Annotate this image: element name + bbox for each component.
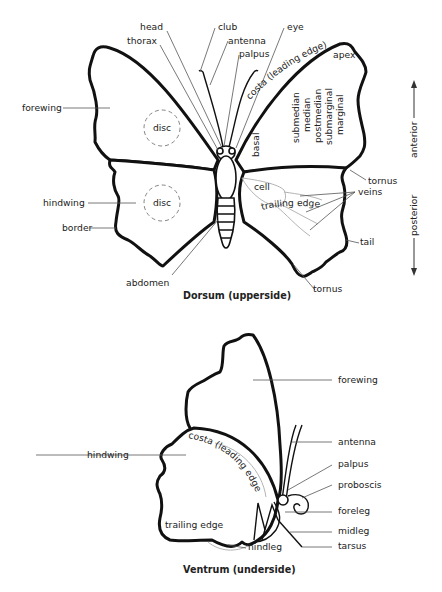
butterfly-anatomy-diagram: disc disc head thorax club antenna palpu… bbox=[0, 0, 442, 592]
label-tornus-forewing: tornus bbox=[368, 175, 397, 186]
label-antenna: antenna bbox=[228, 35, 266, 46]
label-veins: veins bbox=[358, 186, 382, 197]
label-anterior: anterior bbox=[408, 121, 419, 158]
label-posterior: posterior bbox=[408, 195, 419, 236]
caption-ventrum: Ventrum (underside) bbox=[183, 564, 296, 575]
label-hindleg: hindleg bbox=[248, 541, 282, 552]
label-cell: cell bbox=[254, 181, 270, 192]
club bbox=[199, 70, 203, 72]
label-submedian: submedian bbox=[290, 92, 301, 143]
ventral-antenna bbox=[282, 425, 296, 500]
left-hindwing bbox=[110, 160, 217, 266]
label-palpus: palpus bbox=[239, 48, 270, 59]
label-thorax: thorax bbox=[127, 35, 157, 46]
label-proboscis: proboscis bbox=[338, 479, 382, 490]
antenna bbox=[203, 72, 223, 147]
label-tornus-hindwing: tornus bbox=[313, 283, 342, 294]
caption-dorsum: Dorsum (upperside) bbox=[183, 290, 291, 301]
label-foreleg: foreleg bbox=[338, 505, 370, 516]
label-forewing-ventrum: forewing bbox=[338, 374, 378, 385]
label-palpus-ventrum: palpus bbox=[338, 458, 369, 469]
club bbox=[254, 70, 258, 72]
label-trailing-edge-ventrum: trailing edge bbox=[165, 519, 224, 530]
label-head: head bbox=[140, 21, 163, 32]
label-tarsus: tarsus bbox=[338, 540, 367, 551]
label-border: border bbox=[62, 222, 93, 233]
label-antenna-ventrum: antenna bbox=[338, 436, 376, 447]
proboscis bbox=[288, 495, 308, 514]
label-postmedian: postmedian bbox=[312, 89, 323, 143]
thorax bbox=[216, 156, 236, 200]
arrow-down-icon bbox=[411, 268, 417, 276]
label-hindwing-dorsum: hindwing bbox=[43, 197, 85, 208]
label-eye: eye bbox=[287, 21, 304, 32]
label-club: club bbox=[218, 21, 237, 32]
label-midleg: midleg bbox=[338, 525, 369, 536]
eye bbox=[217, 148, 223, 154]
label-marginal: marginal bbox=[334, 94, 345, 135]
label-tail: tail bbox=[360, 236, 374, 247]
eye bbox=[229, 148, 235, 154]
arrow-up-icon bbox=[411, 80, 417, 88]
label-forewing-dorsum: forewing bbox=[22, 102, 62, 113]
label-hindwing-ventrum: hindwing bbox=[87, 449, 129, 460]
label-submarginal: submarginal bbox=[323, 88, 334, 145]
label-disc-hindwing: disc bbox=[153, 197, 171, 208]
label-apex: apex bbox=[333, 49, 356, 60]
label-median: median bbox=[301, 97, 312, 132]
label-abdomen: abdomen bbox=[126, 277, 170, 288]
label-disc-forewing: disc bbox=[153, 122, 171, 133]
orientation-indicator: anterior posterior bbox=[408, 80, 419, 276]
ventral-antenna bbox=[286, 425, 302, 500]
left-forewing bbox=[89, 47, 218, 170]
ventral-eye bbox=[278, 495, 288, 505]
label-basal: basal bbox=[250, 133, 261, 157]
dorsum-diagram: disc disc head thorax club antenna palpu… bbox=[22, 21, 419, 301]
